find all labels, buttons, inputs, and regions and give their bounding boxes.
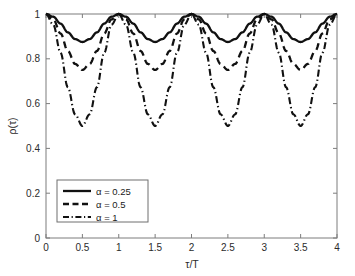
- x-tick-label: 3: [261, 242, 267, 253]
- x-tick-label: 2: [189, 242, 195, 253]
- y-axis-title: ρ(τ): [6, 117, 18, 134]
- chart-figure: 00.511.522.533.54 00.20.40.60.81 τ/T ρ(τ…: [0, 0, 355, 276]
- y-tick-label: 0.2: [26, 188, 40, 199]
- legend-label-2: α = 1: [96, 212, 118, 223]
- y-tick-label: 0.4: [26, 143, 40, 154]
- legend-label-1: α = 0.5: [96, 199, 126, 210]
- x-tick-label: 1.5: [148, 242, 162, 253]
- y-tick-label: 0: [34, 233, 40, 244]
- x-tick-label: 1: [116, 242, 122, 253]
- legend-label-0: α = 0.25: [96, 186, 131, 197]
- chart-legend: α = 0.25α = 0.5α = 1: [57, 180, 148, 223]
- y-tick-label: 0.8: [26, 53, 40, 64]
- y-tick-label: 1: [34, 9, 40, 20]
- x-tick-label: 0.5: [75, 242, 89, 253]
- x-tick-label: 0: [43, 242, 49, 253]
- y-tick-label: 0.6: [26, 98, 40, 109]
- x-tick-label: 3.5: [294, 242, 308, 253]
- x-tick-label: 2.5: [221, 242, 235, 253]
- x-axis-tick-labels: 00.511.522.533.54: [43, 242, 340, 253]
- x-tick-label: 4: [334, 242, 340, 253]
- x-axis-title: τ/T: [185, 258, 199, 270]
- plot-canvas: 00.511.522.533.54 00.20.40.60.81 τ/T ρ(τ…: [0, 0, 355, 276]
